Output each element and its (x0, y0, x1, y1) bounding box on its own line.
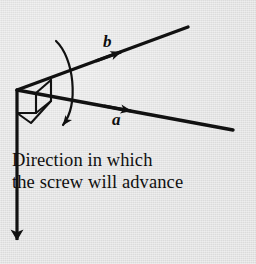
vector-a-arrow (17, 90, 233, 130)
rotation-curved-arrow (56, 41, 73, 125)
vector-b-label: b (103, 33, 112, 50)
figure-canvas: b a Direction in which the screw will ad… (0, 0, 256, 264)
caption: Direction in which the screw will advanc… (12, 150, 248, 194)
vector-a-label: a (112, 111, 121, 128)
caption-line-1: Direction in which (12, 150, 248, 172)
diagram-svg (0, 0, 256, 264)
caption-line-2: the screw will advance (12, 172, 248, 194)
